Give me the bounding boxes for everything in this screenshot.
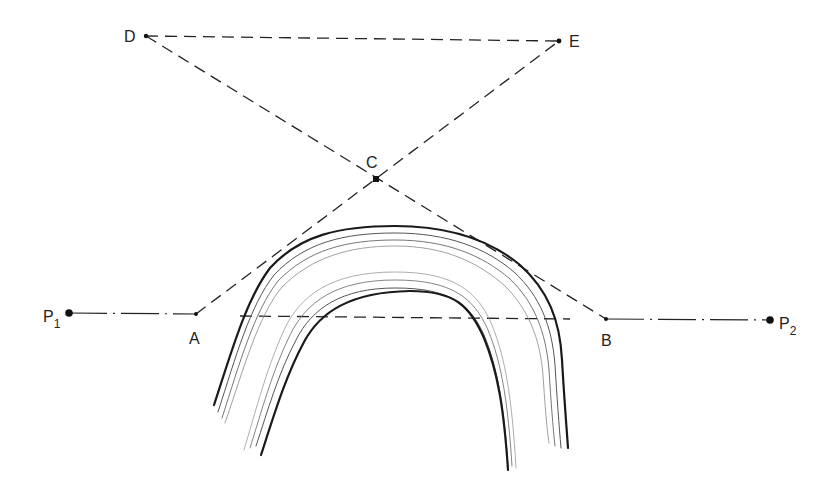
chord-line [240, 316, 570, 319]
label-B: B [601, 332, 612, 349]
labels: D E C A B P1 P2 [43, 28, 797, 349]
diagram-canvas: D E C A B P1 P2 [0, 0, 839, 499]
label-P1: P1 [43, 308, 61, 331]
dash-dot-lines [69, 313, 770, 320]
label-P2-main: P [779, 315, 790, 332]
label-P2: P2 [779, 315, 797, 338]
point-P1 [65, 309, 73, 317]
outer-bank-line-3 [222, 240, 555, 446]
arch-outer-bank [214, 226, 568, 448]
label-P1-main: P [43, 308, 54, 325]
point-B [604, 317, 608, 321]
label-D: D [124, 28, 136, 45]
line-P1-A [69, 313, 196, 314]
label-E: E [569, 33, 580, 50]
outer-bank-thick [214, 226, 568, 448]
point-E [557, 39, 562, 44]
label-P2-sub: 2 [790, 324, 797, 338]
point-C [373, 176, 379, 182]
label-P1-sub: 1 [54, 317, 61, 331]
label-A: A [189, 330, 200, 347]
line-D-E [146, 36, 559, 41]
point-A [194, 312, 198, 316]
arch-inner-bank [244, 272, 516, 470]
outer-bank-line-2 [218, 233, 561, 448]
construction-diagram: D E C A B P1 P2 [0, 0, 839, 499]
point-D [144, 34, 148, 38]
label-C: C [366, 154, 378, 171]
line-B-P2 [606, 319, 770, 320]
inner-bank-line-1 [244, 272, 516, 468]
point-P2 [766, 316, 774, 324]
points [65, 34, 774, 324]
